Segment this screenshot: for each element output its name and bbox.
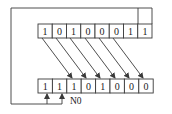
bottom-bit-6: 0 <box>115 81 120 92</box>
top-cell-3: 1 <box>67 24 81 38</box>
bottom-cell-7: 0 <box>124 79 138 93</box>
top-bit-7: 1 <box>128 26 133 37</box>
top-cell-1: 1 <box>38 24 52 38</box>
bottom-register: 1 1 1 0 1 0 0 0 <box>38 79 153 93</box>
shift-arrows <box>42 38 143 78</box>
top-bit-2: 0 <box>57 26 62 37</box>
bottom-cell-4: 0 <box>81 79 95 93</box>
top-bit-1: 1 <box>43 26 48 37</box>
bottom-bit-1: 1 <box>43 81 48 92</box>
shift-register-diagram: 1 0 1 0 0 0 1 1 1 1 1 0 1 0 0 0 N0 <box>0 0 172 114</box>
bottom-bit-8: 0 <box>144 81 149 92</box>
top-bit-6: 0 <box>114 26 119 37</box>
bottom-cell-6: 0 <box>110 79 124 93</box>
top-register: 1 0 1 0 0 0 1 1 <box>38 24 152 38</box>
top-cell-6: 0 <box>109 24 123 38</box>
bottom-cell-3: 1 <box>67 79 81 93</box>
top-cell-8: 1 <box>138 24 152 38</box>
top-bit-4: 0 <box>85 26 90 37</box>
top-bit-3: 1 <box>71 26 76 37</box>
bottom-cell-2: 1 <box>52 79 66 93</box>
bottom-bit-7: 0 <box>129 81 134 92</box>
bottom-cell-1: 1 <box>38 79 52 93</box>
bottom-bit-5: 1 <box>100 81 105 92</box>
bottom-cell-5: 1 <box>96 79 110 93</box>
top-cell-5: 0 <box>95 24 109 38</box>
bottom-bit-3: 1 <box>72 81 77 92</box>
top-bit-8: 1 <box>142 26 147 37</box>
n0-label: N0 <box>70 96 82 106</box>
top-cell-2: 0 <box>52 24 66 38</box>
bottom-bit-2: 1 <box>57 81 62 92</box>
bottom-cell-8: 0 <box>139 79 153 93</box>
top-bit-5: 0 <box>100 26 105 37</box>
top-cell-4: 0 <box>81 24 95 38</box>
bottom-bit-4: 0 <box>86 81 91 92</box>
top-cell-7: 1 <box>124 24 138 38</box>
